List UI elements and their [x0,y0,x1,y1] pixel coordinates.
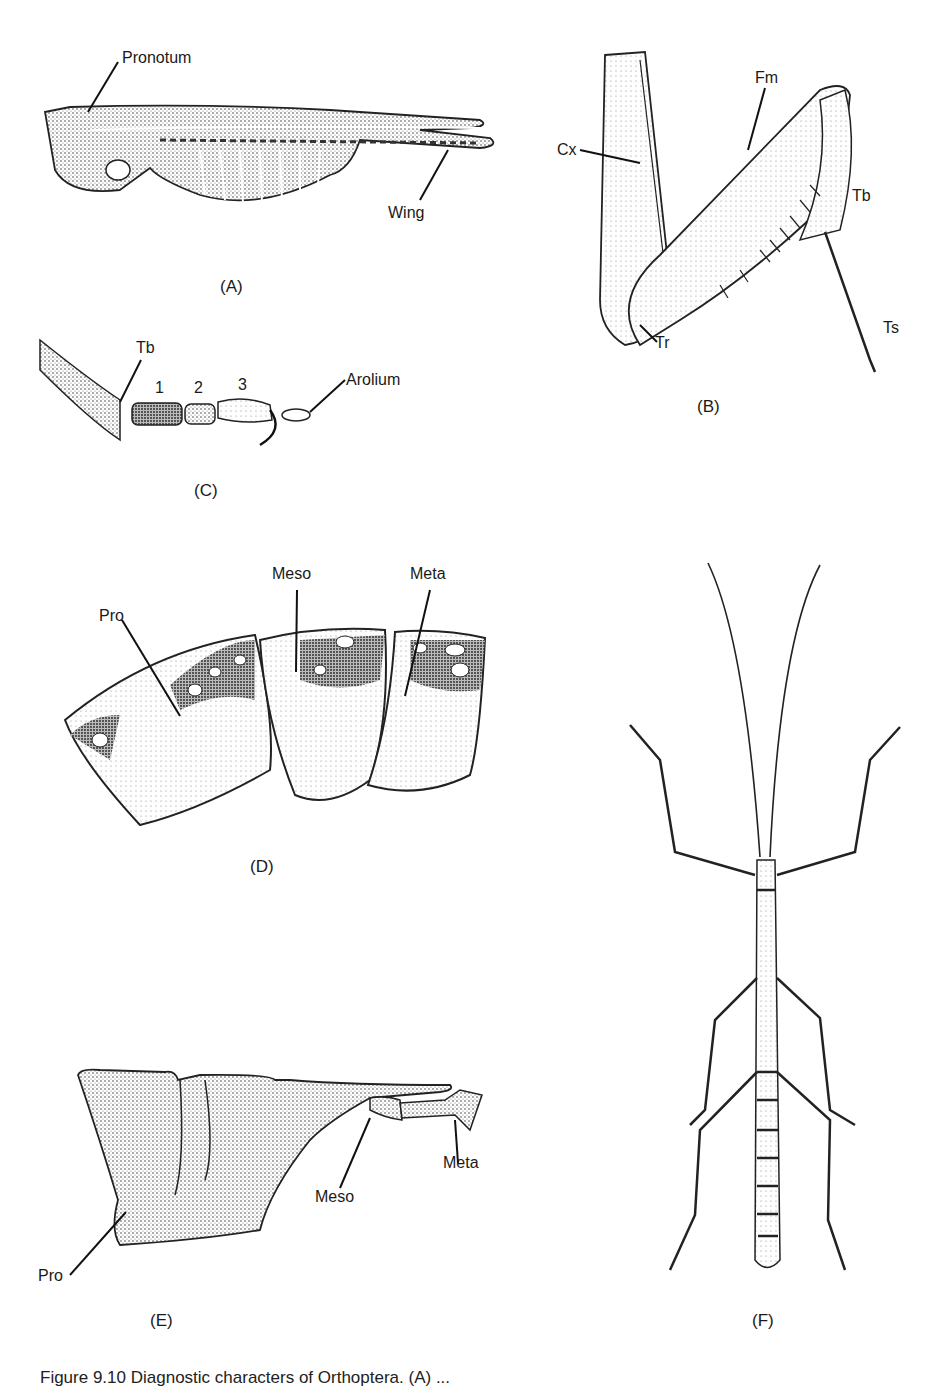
callout-mesothorax-e: Meso [315,1189,354,1205]
figure-caption: Figure 9.10 Diagnostic characters of Ort… [40,1368,450,1388]
panel-label-c: (C) [194,482,218,499]
callout-tibia: Tb [852,188,871,204]
panel-e-drawing [70,1070,482,1275]
callout-femur: Fm [755,70,778,86]
panel-a-drawing [45,62,493,204]
panel-f-drawing [630,563,900,1270]
callout-wing: Wing [388,205,424,221]
panel-label-f: (F) [752,1312,774,1329]
callout-prothorax-e: Pro [38,1268,63,1284]
panel-label-b: (B) [697,398,720,415]
callout-pronotum: Pronotum [122,50,191,66]
callout-mesothorax-d: Meso [272,566,311,582]
callout-tarsomere-1: 1 [155,380,164,396]
panel-label-d: (D) [250,858,274,875]
callout-metathorax-d: Meta [410,566,446,582]
panel-b-drawing [580,52,875,372]
panel-d-drawing [65,590,485,825]
callout-arolium: Arolium [346,372,400,388]
panel-c-drawing [40,340,345,445]
panel-label-e: (E) [150,1312,173,1329]
callout-tarsus: Ts [883,320,899,336]
callout-tibia-c: Tb [136,340,155,356]
callout-trochanter: Tr [655,335,670,351]
callout-prothorax-d: Pro [99,608,124,624]
callout-tarsomere-2: 2 [194,380,203,396]
callout-tarsomere-3: 3 [238,377,247,393]
callout-metathorax-e: Meta [443,1155,479,1171]
callout-coxa: Cx [557,142,577,158]
panel-label-a: (A) [220,278,243,295]
